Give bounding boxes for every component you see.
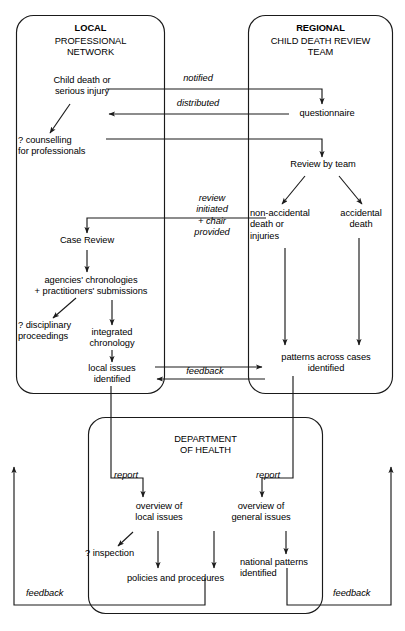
- group-box-regional: [249, 16, 393, 394]
- group-title-doh: DEPARTMENT OF HEALTH: [88, 434, 323, 457]
- node-agencies-chronologies: agencies' chronologies + practitioners' …: [18, 275, 164, 298]
- node-policies-procedures: policies and procedures: [118, 573, 233, 584]
- edge-label-review-initiated: review initiated + chair provided: [178, 193, 246, 239]
- node-child-death: Child death or serious injury: [24, 75, 140, 98]
- edge-childdeath-to-counselling: [50, 104, 70, 133]
- edge-label-notified: notified: [168, 73, 228, 84]
- edge-label-report-right: report: [256, 470, 304, 481]
- node-non-accidental: non-accidental death or injuries: [250, 208, 330, 242]
- group-title-regional-bold: REGIONAL: [248, 23, 393, 34]
- edge-label-feedback-mid: feedback: [177, 366, 233, 377]
- edge-overviewlocal-to-inspection: [118, 532, 133, 546]
- flowchart-diagram: LOCAL PROFESSIONAL NETWORK REGIONAL CHIL…: [0, 0, 405, 631]
- edge-feedback-right-loop: [287, 467, 391, 605]
- node-accidental-death: accidental death: [333, 208, 389, 231]
- edge-review-to-nonaccidental: [282, 176, 305, 204]
- node-questionnaire: questionnaire: [288, 108, 366, 119]
- node-patterns-across-cases: patterns across cases identified: [268, 352, 384, 375]
- edge-label-feedback-left: feedback: [26, 588, 82, 599]
- node-overview-general-issues: overview of general issues: [215, 501, 307, 524]
- edge-label-report-left: report: [114, 470, 162, 481]
- node-national-patterns: national patterns identified: [240, 557, 324, 580]
- group-title-local-rest: PROFESSIONAL NETWORK: [16, 36, 165, 59]
- node-inspection: ? inspection: [85, 548, 147, 559]
- group-title-regional-rest: CHILD DEATH REVIEW TEAM: [248, 36, 393, 59]
- edge-review-to-accidental: [339, 176, 362, 204]
- edge-local-to-reviewbyteam: [106, 139, 322, 157]
- node-overview-local-issues: overview of local issues: [115, 501, 203, 524]
- edge-label-distributed: distributed: [163, 98, 233, 109]
- node-local-issues: local issues identified: [78, 363, 146, 386]
- edge-agencies-to-disciplinary: [53, 298, 76, 318]
- node-review-by-team: Review by team: [278, 159, 368, 170]
- edge-label-feedback-right: feedback: [333, 588, 389, 599]
- group-title-local-bold: LOCAL: [16, 23, 165, 34]
- node-case-review: Case Review: [38, 235, 136, 246]
- node-integrated-chronology: integrated chronology: [77, 327, 147, 350]
- node-counselling: ? counselling for professionals: [18, 135, 138, 158]
